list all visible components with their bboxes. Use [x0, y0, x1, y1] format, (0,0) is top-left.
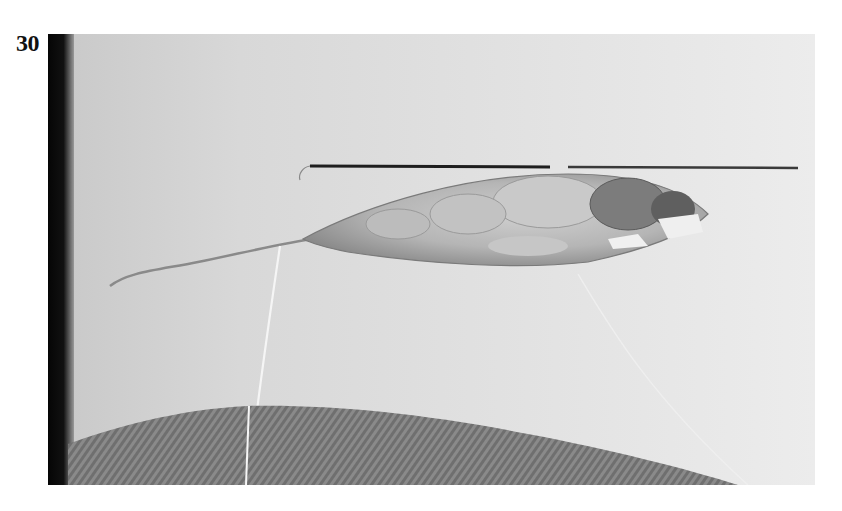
left-shadow-edge [48, 34, 74, 485]
needle-right [568, 167, 798, 168]
figure-page: 30 [0, 0, 842, 511]
surgical-photograph [48, 34, 815, 485]
bowel-loop [430, 194, 506, 234]
bowel-loop [493, 176, 603, 228]
bowel-loop [488, 236, 568, 256]
figure-number: 30 [16, 30, 39, 57]
bowel-loop [366, 209, 430, 239]
needle-left [310, 166, 550, 167]
